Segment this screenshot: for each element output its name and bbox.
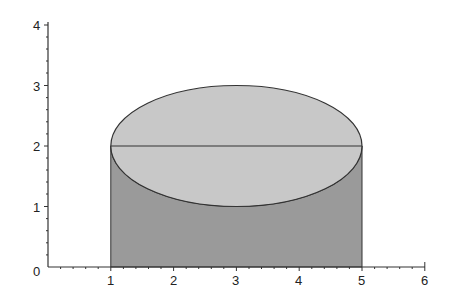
chart: 0 1 2 3 4 1 2 3 4 5 6 — [0, 0, 458, 303]
svg-text:0: 0 — [33, 264, 40, 279]
svg-text:2: 2 — [170, 273, 177, 288]
svg-text:5: 5 — [358, 273, 365, 288]
svg-text:1: 1 — [107, 273, 114, 288]
svg-text:4: 4 — [33, 18, 40, 33]
svg-text:1: 1 — [33, 200, 40, 215]
svg-text:3: 3 — [33, 79, 40, 94]
svg-text:6: 6 — [421, 273, 428, 288]
svg-text:2: 2 — [33, 139, 40, 154]
svg-text:3: 3 — [232, 273, 239, 288]
svg-text:4: 4 — [295, 273, 302, 288]
